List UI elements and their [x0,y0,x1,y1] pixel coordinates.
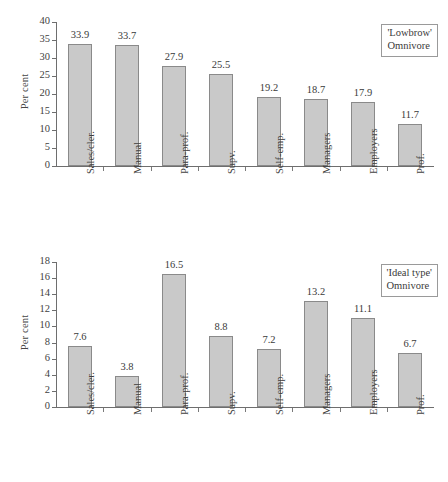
y-tick-label: 30 [22,51,50,62]
x-axis-label: Prof. [415,394,426,415]
legend-box: 'Lowbrow'Omnivore [381,24,438,57]
x-axis-label: Para-prof. [179,373,190,415]
x-axis-label: Self-emp. [274,133,285,174]
y-tick-label: 16 [22,271,50,282]
x-tick-mark [340,167,341,171]
y-tick-mark [52,130,56,131]
chart-ideal-type-omnivore: 024681012141618Per cent7.6Sales/cler.3.8… [0,241,448,482]
bar-value-label: 11.1 [339,303,387,314]
x-axis-label: Sales/cler. [85,131,96,174]
bar-value-label: 11.7 [386,109,434,120]
x-tick-mark [151,167,152,171]
x-tick-mark [103,408,104,412]
bar-value-label: 18.7 [292,84,340,95]
bar-value-label: 3.8 [103,361,151,372]
legend-line: 'Ideal type' [387,267,432,280]
y-tick-mark [52,375,56,376]
y-tick-mark [52,76,56,77]
y-tick-mark [52,166,56,167]
y-tick-mark [52,22,56,23]
x-axis-label: Self-emp. [274,374,285,415]
x-tick-mark [292,408,293,412]
bar-value-label: 19.2 [245,82,293,93]
y-tick-mark [52,310,56,311]
bar-value-label: 27.9 [150,51,198,62]
y-tick-label: 14 [22,287,50,298]
y-tick-label: 10 [22,123,50,134]
y-tick-mark [52,262,56,263]
figure-caption [0,472,448,482]
y-tick-mark [52,58,56,59]
y-tick-label: 35 [22,33,50,44]
y-tick-mark [52,278,56,279]
bar-value-label: 16.5 [150,259,198,270]
legend-box: 'Ideal type'Omnivore [381,264,438,297]
x-tick-mark [151,408,152,412]
y-tick-mark [52,343,56,344]
x-tick-mark [340,408,341,412]
y-tick-mark [52,391,56,392]
x-tick-mark [245,408,246,412]
x-axis-label: Supv. [226,150,237,174]
y-tick-mark [52,407,56,408]
chart-lowbrow-omnivore: 0510152025303540Per cent33.9Sales/cler.3… [0,0,448,241]
y-tick-mark [52,94,56,95]
x-axis-label: Prof. [415,153,426,174]
x-axis-label: Sales/cler. [85,372,96,415]
legend-line: Omnivore [387,280,432,293]
y-tick-label: 4 [22,368,50,379]
x-tick-mark [245,167,246,171]
x-axis-label: Para-prof. [179,132,190,174]
y-tick-label: 0 [22,159,50,170]
x-axis-label: Manual [132,142,143,174]
x-tick-mark [198,167,199,171]
legend-line: Omnivore [387,40,432,53]
y-tick-label: 40 [22,15,50,26]
bar-value-label: 17.9 [339,87,387,98]
y-tick-mark [52,40,56,41]
x-tick-mark [198,408,199,412]
bar-value-label: 8.8 [197,321,245,332]
y-axis-title: Per cent [19,62,30,122]
y-axis-title: Per cent [19,302,30,362]
bar-value-label: 33.9 [56,29,104,40]
x-tick-mark [387,167,388,171]
legend-line: 'Lowbrow' [387,27,432,40]
x-tick-mark [292,167,293,171]
bar-value-label: 6.7 [386,338,434,349]
bar-value-label: 33.7 [103,30,151,41]
x-axis-label: Managers [321,133,332,174]
y-tick-label: 0 [22,400,50,411]
x-axis-label: Employers [368,129,379,175]
y-tick-label: 5 [22,141,50,152]
bar-value-label: 7.6 [56,331,104,342]
y-tick-mark [52,359,56,360]
y-tick-label: 2 [22,384,50,395]
x-axis-label: Manual [132,383,143,415]
bar-value-label: 13.2 [292,286,340,297]
y-axis-line [56,22,57,167]
y-tick-mark [52,326,56,327]
y-tick-label: 18 [22,255,50,266]
y-tick-mark [52,294,56,295]
y-tick-mark [52,148,56,149]
y-tick-mark [52,112,56,113]
bar-value-label: 25.5 [197,59,245,70]
x-tick-mark [103,167,104,171]
bar-value-label: 7.2 [245,334,293,345]
x-tick-mark [387,408,388,412]
x-axis-label: Supv. [226,391,237,415]
x-axis-label: Employers [368,370,379,416]
x-axis-label: Managers [321,374,332,415]
